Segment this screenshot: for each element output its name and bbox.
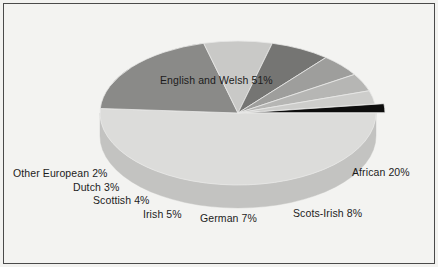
slice-label-scottish: Scottish 4% bbox=[93, 194, 150, 206]
chart-page: English and Welsh 51% African 20% Scots-… bbox=[0, 0, 438, 267]
pie-3d-group bbox=[100, 41, 385, 208]
slice-label-irish: Irish 5% bbox=[143, 208, 182, 220]
slice-label-other-european: Other European 2% bbox=[13, 167, 108, 179]
slice-label-scots-irish: Scots-Irish 8% bbox=[293, 207, 362, 219]
slice-label-dutch: Dutch 3% bbox=[73, 181, 119, 193]
slice-label-english-and-welsh: English and Welsh 51% bbox=[160, 74, 273, 86]
slice-label-african: African 20% bbox=[352, 166, 410, 178]
pie-chart-graphic bbox=[0, 0, 438, 267]
slice-label-german: German 7% bbox=[200, 212, 257, 224]
